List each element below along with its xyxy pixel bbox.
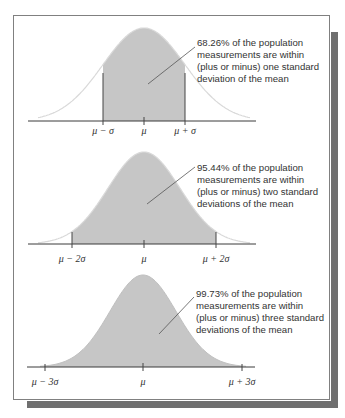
annotation-line-3: (plus or minus) two standard	[197, 186, 318, 197]
panel-two-sigma: μ − 2σ μ μ + 2σ 95.44% of the population…	[28, 152, 318, 264]
tick-label-plus-2sigma: μ + 2σ	[202, 253, 231, 264]
annotation-line-1: 95.44% of the population	[197, 162, 303, 173]
annotation-line-3: (plus or minus) one standard	[197, 61, 319, 72]
tick-label-mean: μ	[140, 125, 146, 136]
tick-label-minus-3sigma: μ − 3σ	[31, 376, 60, 387]
tick-label-minus-sigma: μ − σ	[91, 125, 115, 136]
annotation-line-2: measurements are within	[196, 300, 303, 311]
tick-label-plus-sigma: μ + σ	[173, 125, 197, 136]
tick-label-plus-3sigma: μ + 3σ	[228, 376, 257, 387]
tick-label-mean: μ	[139, 376, 145, 387]
annotation-line-2: measurements are within	[197, 174, 304, 185]
annotation-line-2: measurements are within	[197, 49, 304, 60]
annotation-line-1: 99.73% of the population	[196, 288, 302, 299]
annotation-line-4: deviations of the mean	[196, 324, 293, 335]
tick-label-minus-2sigma: μ − 2σ	[58, 253, 87, 264]
annotation-line-1: 68.26% of the population	[197, 37, 303, 48]
normal-distribution-diagram: μ − σ μ μ + σ 68.26% of the population m…	[0, 0, 345, 418]
tick-label-mean: μ	[140, 253, 146, 264]
curve-fill	[72, 152, 216, 244]
annotation-line-4: deviation of the mean	[197, 73, 289, 84]
annotation-line-3: (plus or minus) three standard	[196, 312, 324, 323]
panel-one-sigma: μ − σ μ μ + σ 68.26% of the population m…	[28, 28, 319, 136]
panel-three-sigma: μ − 3σ μ μ + 3σ 99.73% of the population…	[27, 275, 324, 387]
annotation-line-4: deviations of the mean	[197, 198, 294, 209]
curve-fill	[103, 28, 185, 121]
